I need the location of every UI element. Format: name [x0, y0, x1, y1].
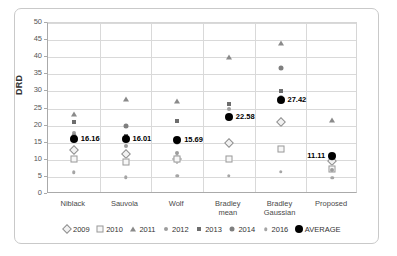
legend-marker-icon — [64, 226, 71, 233]
grid-line — [48, 23, 356, 24]
grid-line — [48, 40, 356, 41]
data-point-2009 — [224, 138, 234, 148]
y-axis-tick-label: 50 — [22, 18, 42, 26]
data-point-average — [122, 135, 130, 143]
legend-marker-icon — [229, 226, 236, 233]
data-point-2010 — [277, 146, 284, 153]
data-point-2016 — [72, 171, 76, 175]
category-label-line: Proposed — [301, 199, 361, 208]
y-axis-tick-label: 35 — [22, 69, 42, 77]
data-point-2016 — [124, 175, 128, 179]
legend-marker-icon — [262, 226, 269, 233]
legend-label: 2014 — [238, 225, 255, 234]
data-point-2014 — [278, 66, 283, 71]
plot-area: 16.1616.0115.6922.5827.4211.11 — [47, 22, 357, 193]
average-value-label: 16.16 — [81, 135, 100, 143]
y-axis-tick-label: 25 — [22, 104, 42, 112]
y-axis-tick-label: 15 — [22, 138, 42, 146]
data-point-2009 — [69, 145, 79, 155]
legend-item-2012[interactable]: 2012 — [163, 225, 189, 234]
data-point-average — [225, 113, 233, 121]
category-label-line: Gaussian — [250, 208, 310, 217]
data-point-average — [328, 152, 336, 160]
data-point-2011 — [278, 40, 284, 45]
data-point-2013 — [72, 120, 76, 124]
chart-figure: DRD 05101520253035404550 16.1616.0115.69… — [0, 0, 397, 256]
legend-label: 2011 — [139, 225, 155, 234]
data-point-2016 — [227, 174, 231, 178]
grid-line — [48, 57, 356, 58]
legend-marker-icon — [130, 226, 137, 233]
average-value-label: 15.69 — [184, 136, 203, 144]
legend-label: AVERAGE — [305, 225, 341, 234]
grid-line — [48, 126, 356, 127]
data-point-2011 — [71, 112, 77, 117]
data-point-2011 — [226, 54, 232, 59]
data-point-2010 — [174, 156, 181, 163]
data-point-2012 — [227, 107, 231, 111]
category-separator — [151, 23, 152, 192]
data-point-2016 — [330, 176, 334, 180]
data-point-2012 — [175, 151, 179, 155]
legend-item-2014[interactable]: 2014 — [229, 225, 255, 234]
y-axis-tick-label: 45 — [22, 35, 42, 43]
data-point-2013 — [227, 102, 231, 106]
legend-item-2010[interactable]: 2010 — [97, 225, 123, 234]
data-point-2012 — [330, 168, 334, 172]
average-value-label: 27.42 — [288, 96, 307, 104]
legend-item-2013[interactable]: 2013 — [196, 225, 222, 234]
legend-label: 2016 — [272, 225, 289, 234]
legend-item-2009[interactable]: 2009 — [64, 225, 90, 234]
data-point-2011 — [123, 96, 129, 101]
legend-label: 2012 — [172, 225, 189, 234]
y-axis-tick-label: 30 — [22, 86, 42, 94]
legend-item-2016[interactable]: 2016 — [262, 225, 288, 234]
category-separator — [306, 23, 307, 192]
legend-marker-icon — [163, 226, 170, 233]
data-point-2014 — [123, 124, 128, 129]
category-separator — [100, 23, 101, 192]
x-axis-category-label: Proposed — [301, 199, 361, 208]
data-point-2013 — [279, 89, 283, 93]
grid-line — [48, 109, 356, 110]
y-axis-tick-label: 0 — [22, 189, 42, 197]
y-axis-tick-label: 20 — [22, 121, 42, 129]
data-point-average — [173, 136, 181, 144]
data-point-average — [70, 135, 78, 143]
grid-line — [48, 91, 356, 92]
legend-marker-icon — [196, 226, 203, 233]
category-separator — [255, 23, 256, 192]
average-value-label: 16.01 — [133, 135, 152, 143]
y-axis-tick-mark — [44, 193, 47, 194]
y-axis-tick-label: 5 — [22, 172, 42, 180]
grid-line — [48, 177, 356, 178]
legend-label: 2009 — [73, 225, 90, 234]
legend-item-2011[interactable]: 2011 — [130, 225, 156, 234]
average-value-label: 11.11 — [307, 152, 325, 160]
y-axis-tick-label: 10 — [22, 155, 42, 163]
data-point-2010 — [70, 155, 77, 162]
data-point-2010 — [225, 155, 232, 162]
data-point-2012 — [124, 144, 128, 148]
data-point-2010 — [122, 158, 129, 165]
grid-line — [48, 74, 356, 75]
category-separator — [203, 23, 204, 192]
legend-label: 2010 — [106, 225, 123, 234]
legend-label: 2013 — [205, 225, 222, 234]
legend-marker-icon — [97, 226, 104, 233]
y-axis-tick-label: 40 — [22, 52, 42, 60]
legend-item-average[interactable]: AVERAGE — [295, 225, 340, 234]
data-point-average — [277, 96, 285, 104]
data-point-2011 — [174, 98, 180, 103]
average-value-label: 22.58 — [236, 113, 255, 121]
data-point-2016 — [175, 174, 179, 178]
data-point-2016 — [279, 170, 283, 174]
chart-legend: 2009201020112012201320142016AVERAGE — [47, 222, 357, 236]
data-point-2013 — [175, 119, 179, 123]
legend-marker-icon — [295, 226, 302, 233]
data-point-2011 — [329, 117, 335, 122]
